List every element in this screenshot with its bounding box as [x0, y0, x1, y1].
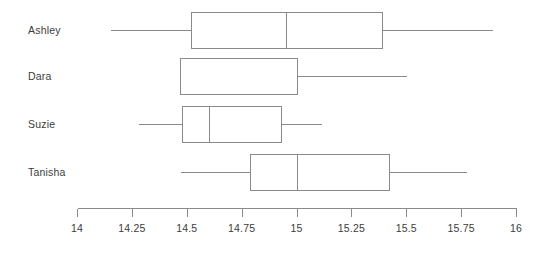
- category-label-dara: Dara: [28, 70, 52, 82]
- x-tick-label-5: 15.25: [338, 222, 365, 234]
- boxplot-box-suzie: [139, 107, 322, 143]
- x-tick-label-7: 15.75: [447, 222, 474, 234]
- x-tick-label-0: 14: [71, 222, 83, 234]
- category-label-tanisha: Tanisha: [28, 166, 66, 178]
- boxplot-figure: AshleyDaraSuzieTanisha 1414.2514.514.751…: [0, 0, 550, 253]
- x-axis-layer: [78, 209, 517, 217]
- x-tick-label-2: 14.5: [176, 222, 197, 234]
- boxplot-box-tanisha: [181, 155, 467, 191]
- boxplot-canvas: [0, 0, 550, 253]
- x-tick-label-4: 15: [290, 222, 302, 234]
- box-body-dara: [181, 59, 298, 95]
- category-label-suzie: Suzie: [28, 118, 55, 130]
- x-tick-label-3: 14.75: [228, 222, 255, 234]
- x-tick-label-8: 16: [510, 222, 522, 234]
- x-tick-label-6: 15.5: [396, 222, 417, 234]
- category-label-ashley: Ashley: [28, 24, 61, 36]
- x-tick-label-1: 14.25: [118, 222, 145, 234]
- boxplot-box-dara: [181, 59, 407, 95]
- boxplot-series-layer: [111, 13, 493, 191]
- boxplot-box-ashley: [111, 13, 493, 49]
- box-body-suzie: [183, 107, 282, 143]
- box-body-tanisha: [251, 155, 390, 191]
